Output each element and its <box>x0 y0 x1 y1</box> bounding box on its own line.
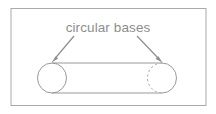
leader-arrowhead-left <box>52 56 59 62</box>
figure-container: circular bases <box>0 0 216 114</box>
leader-line-left <box>55 36 74 59</box>
right-circular-base-front-arc <box>162 63 177 93</box>
leader-line-right <box>137 36 159 59</box>
right-circular-base-hidden-arc <box>148 63 163 93</box>
cylinder-diagram: circular bases <box>0 0 216 114</box>
left-circular-base <box>38 63 67 93</box>
annotation-label: circular bases <box>66 20 151 35</box>
